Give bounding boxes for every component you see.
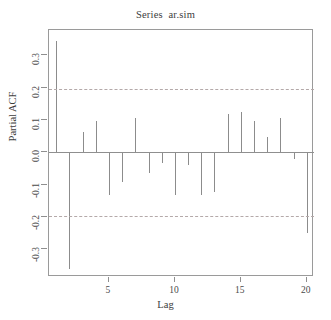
y-tick-6 <box>41 248 47 249</box>
y-tick-label-6: -0.3 <box>31 247 41 262</box>
bar-lag-17 <box>267 137 268 152</box>
x-tick-1 <box>174 277 175 282</box>
confidence-bound-upper <box>49 89 314 90</box>
x-tick-3 <box>306 277 307 282</box>
chart-title: Series ar.sim <box>0 9 331 20</box>
y-tick-3 <box>41 151 47 152</box>
y-tick-1 <box>41 87 47 88</box>
bar-lag-2 <box>69 152 70 269</box>
zero-reference-line <box>49 152 314 153</box>
y-tick-4 <box>41 184 47 185</box>
bar-lag-6 <box>122 152 123 182</box>
y-tick-5 <box>41 216 47 217</box>
confidence-bound-lower <box>49 216 314 217</box>
y-tick-label-0: 0.3 <box>31 53 41 65</box>
bar-lag-18 <box>280 118 281 152</box>
x-tick-0 <box>108 277 109 282</box>
bar-lag-5 <box>109 152 110 194</box>
x-axis-label: Lag <box>0 299 331 310</box>
y-tick-0 <box>41 54 47 55</box>
bar-lag-9 <box>162 152 163 162</box>
bar-lag-19 <box>294 152 295 159</box>
bar-lag-1 <box>56 41 57 153</box>
y-tick-label-4: -0.1 <box>31 183 41 198</box>
x-tick-label-0: 5 <box>106 285 111 295</box>
bar-lag-11 <box>188 152 189 165</box>
x-tick-label-2: 15 <box>235 285 245 295</box>
y-tick-2 <box>41 119 47 120</box>
y-axis-label: Partial ACF <box>7 69 18 165</box>
y-tick-label-5: -0.2 <box>31 215 41 230</box>
bar-lag-7 <box>135 118 136 152</box>
pacf-plot-figure: Series ar.sim Partial ACF Lag 0.30.20.10… <box>0 0 331 320</box>
bar-lag-8 <box>149 152 150 172</box>
bar-lag-14 <box>228 114 229 153</box>
bar-lag-3 <box>83 132 84 152</box>
y-tick-label-2: 0.1 <box>31 118 41 130</box>
bar-lag-15 <box>241 112 242 152</box>
bar-lag-12 <box>201 152 202 195</box>
bar-lag-4 <box>96 121 97 153</box>
bar-lag-16 <box>254 121 255 153</box>
y-tick-label-1: 0.2 <box>31 86 41 98</box>
bar-lag-20 <box>307 152 308 233</box>
y-tick-label-3: 0.0 <box>31 150 41 162</box>
x-tick-label-1: 10 <box>169 285 179 295</box>
bar-lag-13 <box>214 152 215 191</box>
x-tick-label-3: 20 <box>301 285 311 295</box>
bar-lag-10 <box>175 152 176 195</box>
x-tick-2 <box>240 277 241 282</box>
plot-area <box>48 29 313 276</box>
